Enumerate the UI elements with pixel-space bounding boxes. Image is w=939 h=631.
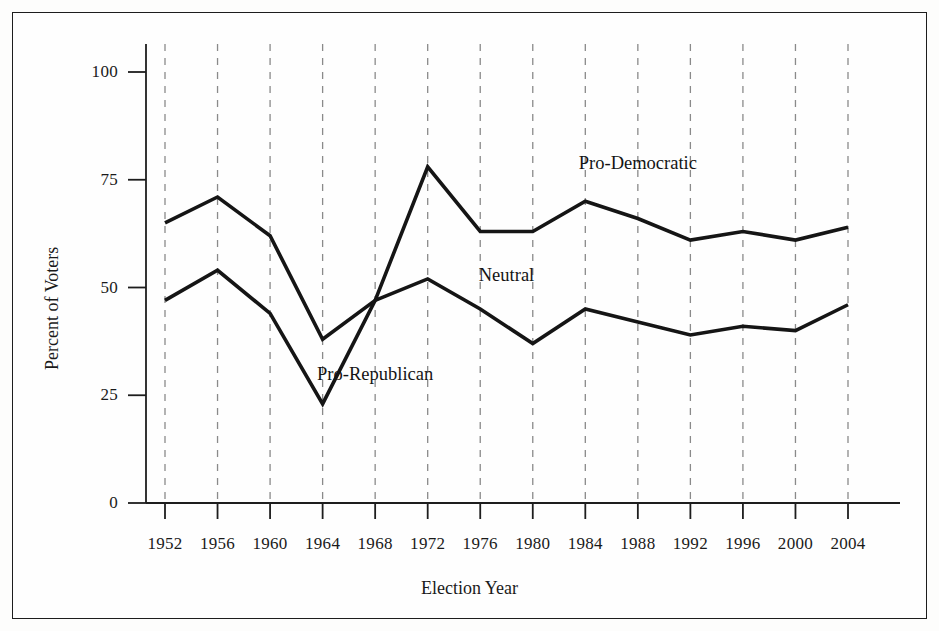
x-tick-label-1976: 1976 — [463, 534, 498, 554]
x-tick-label-1984: 1984 — [568, 534, 603, 554]
x-tick-label-1992: 1992 — [673, 534, 708, 554]
y-axis-title: Percent of Voters — [42, 247, 63, 370]
x-tick-label-2000: 2000 — [778, 534, 813, 554]
annotation-pro-democratic: Pro-Democratic — [579, 152, 697, 173]
x-axis-ticks — [165, 503, 848, 519]
y-tick-label-0: 0 — [60, 493, 118, 513]
figure-container: 0255075100 19521956196019641968197219761… — [0, 0, 939, 631]
x-tick-label-1964: 1964 — [305, 534, 340, 554]
x-axis-title: Election Year — [0, 578, 939, 599]
series-line-lower — [165, 270, 848, 404]
x-tick-label-1972: 1972 — [410, 534, 445, 554]
annotation-pro-republican: Pro-Republican — [317, 363, 433, 384]
y-tick-label-25: 25 — [60, 385, 118, 405]
data-series-group — [165, 167, 848, 404]
y-tick-label-75: 75 — [60, 170, 118, 190]
x-tick-label-1952: 1952 — [147, 534, 182, 554]
x-tick-label-2004: 2004 — [830, 534, 865, 554]
y-tick-label-100: 100 — [60, 62, 118, 82]
x-tick-label-1980: 1980 — [515, 534, 550, 554]
x-tick-label-1996: 1996 — [725, 534, 760, 554]
x-tick-label-1956: 1956 — [200, 534, 235, 554]
y-axis-ticks — [128, 72, 146, 503]
y-tick-label-50: 50 — [60, 278, 118, 298]
x-tick-label-1988: 1988 — [620, 534, 655, 554]
x-tick-label-1960: 1960 — [252, 534, 287, 554]
x-tick-label-1968: 1968 — [358, 534, 393, 554]
annotation-neutral: Neutral — [479, 264, 534, 285]
